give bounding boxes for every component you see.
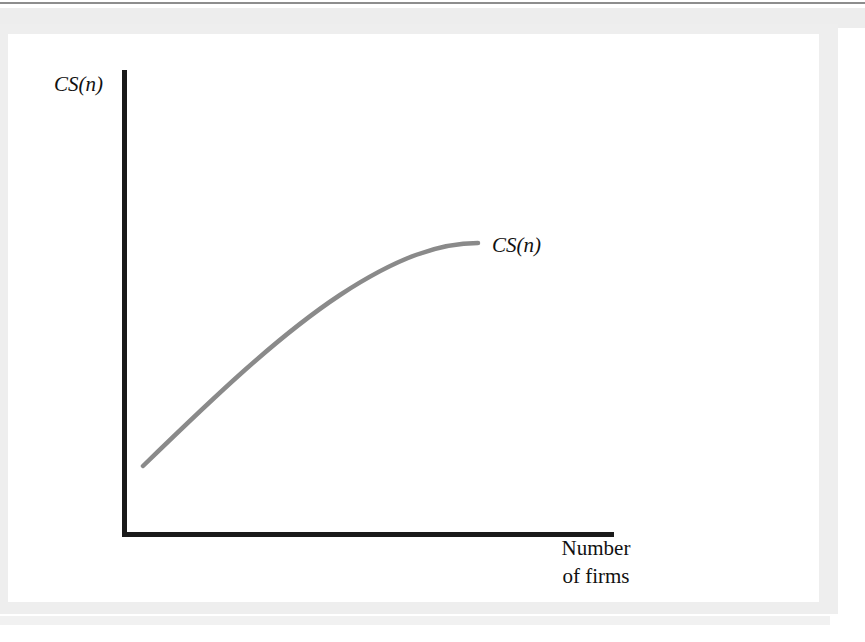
cs-curve-svg [0, 0, 865, 642]
cs-curve-path [143, 243, 478, 466]
x-axis-label-line2: of firms [531, 562, 661, 590]
plot-area: CS(n) CS(n) Number of firms [0, 0, 865, 642]
x-axis-label: Number of firms [531, 534, 661, 590]
curve-label: CS(n) [492, 233, 541, 258]
y-axis-label-text: CS(n) [54, 72, 103, 96]
x-axis-label-line1: Number [531, 534, 661, 562]
y-axis-label: CS(n) [54, 72, 103, 97]
curve-label-text: CS(n) [492, 233, 541, 257]
figure-page: CS(n) CS(n) Number of firms [0, 0, 865, 642]
